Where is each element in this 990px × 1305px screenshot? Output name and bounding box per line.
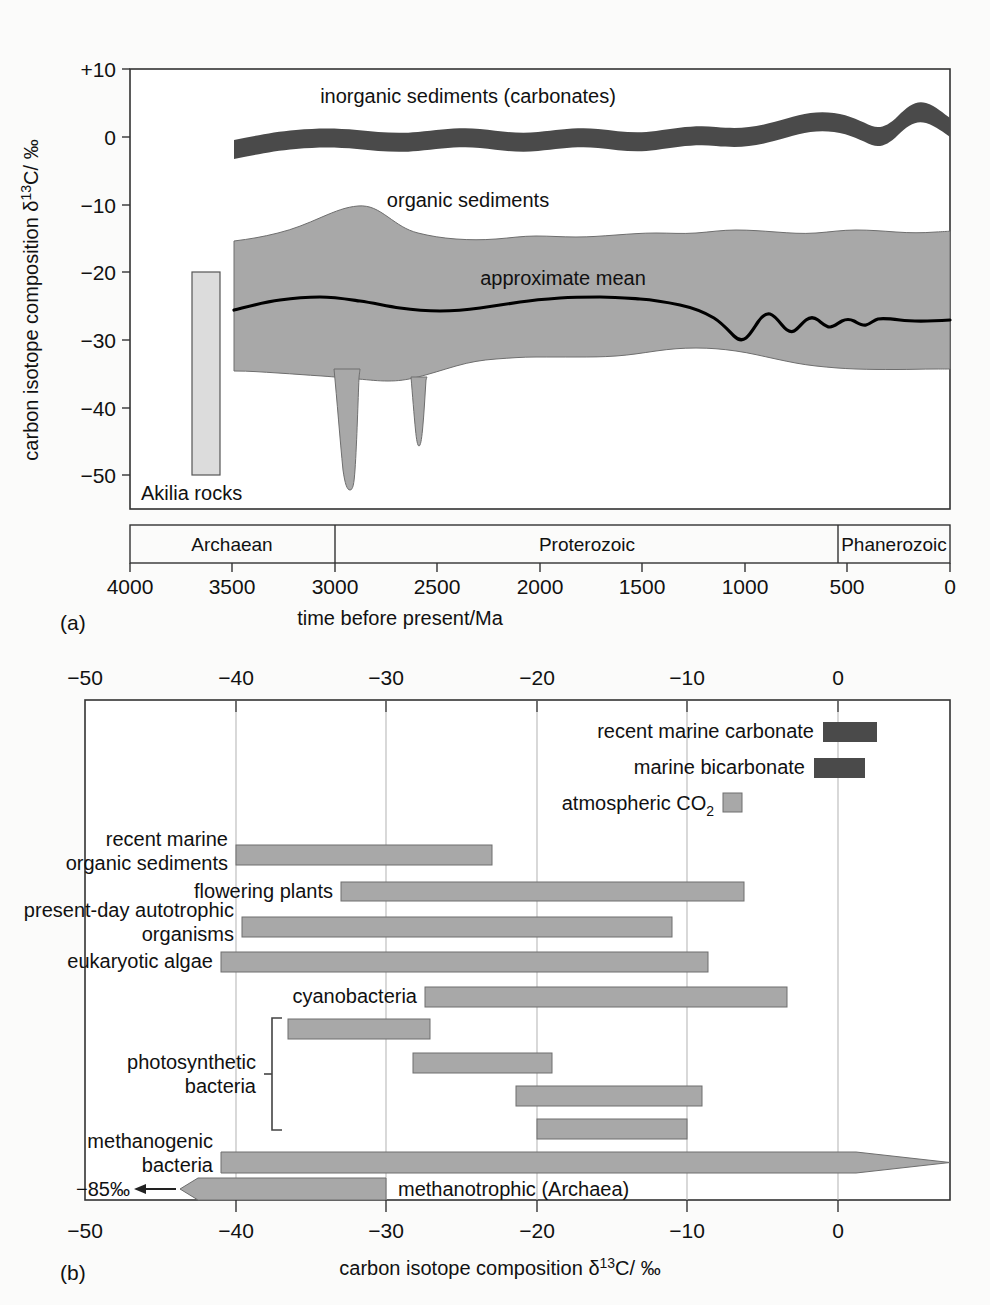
organic-sediments-label: organic sediments xyxy=(387,189,549,211)
bottom-x-tick-label: −10 xyxy=(669,1219,705,1242)
bottom-x-tick-label: −40 xyxy=(218,1219,254,1242)
label-recent-marine-line2: organic sediments xyxy=(66,852,228,874)
label-eukaryotic-algae: eukaryotic algae xyxy=(67,950,213,972)
label-recent-marine-line1: recent marine xyxy=(106,828,228,850)
y-tick-label: −50 xyxy=(80,464,116,487)
era-label-phanerozoic: Phanerozoic xyxy=(841,534,947,555)
bottom-x-tick-label: −30 xyxy=(368,1219,404,1242)
era-label-archaean: Archaean xyxy=(191,534,272,555)
bottom-x-tick-label: −50 xyxy=(67,1219,103,1242)
panel-a-label: (a) xyxy=(60,611,86,634)
top-x-tick-label: −20 xyxy=(519,666,555,689)
bar-flowering-plants xyxy=(341,882,744,901)
label-atmospheric-co2-subscript: 2 xyxy=(706,803,714,819)
x-tick-label: 3500 xyxy=(209,575,256,598)
bar-cyanobacteria xyxy=(425,987,787,1007)
inorganic-sediments-label: inorganic sediments (carbonates) xyxy=(320,85,616,107)
label-autotrophic-line1: present-day autotrophic xyxy=(24,899,234,921)
label-minus-85-permil: −85‰ xyxy=(76,1178,130,1200)
label-marine-bicarbonate: marine bicarbonate xyxy=(634,756,805,778)
x-tick-label: 1500 xyxy=(619,575,666,598)
label-photosynthetic-line2: bacteria xyxy=(185,1075,257,1097)
label-methanotrophic: methanotrophic (Archaea) xyxy=(398,1178,629,1200)
x-tick-label: 2000 xyxy=(517,575,564,598)
y-tick-label: +10 xyxy=(80,58,116,81)
x-tick-label: 500 xyxy=(829,575,864,598)
akilia-rocks-label: Akilia rocks xyxy=(141,482,242,504)
bar-methanotrophic-archaea xyxy=(180,1178,386,1200)
y-tick-label: −20 xyxy=(80,261,116,284)
label-methanogenic-line1: methanogenic xyxy=(87,1130,213,1152)
y-axis-title-delta: δ xyxy=(20,200,42,211)
top-x-tick-label: 0 xyxy=(832,666,844,689)
label-atmospheric-co2-main: atmospheric CO xyxy=(562,792,707,814)
bar-photosynthetic-bacteria-1 xyxy=(288,1019,430,1039)
bar-recent-marine-organic-sediments xyxy=(236,845,492,865)
bottom-x-tick-label: 0 xyxy=(832,1219,844,1242)
x-tick-label: 4000 xyxy=(107,575,154,598)
figure-svg: Archaean Proterozoic Phanerozoic +10 0 −… xyxy=(0,0,990,1305)
akilia-rocks-bar xyxy=(192,272,220,475)
y-tick-label: −40 xyxy=(80,397,116,420)
label-autotrophic-line2: organisms xyxy=(142,923,234,945)
bar-eukaryotic-algae xyxy=(221,952,708,972)
y-tick-label: −10 xyxy=(80,194,116,217)
bar-photosynthetic-bacteria-4 xyxy=(537,1119,687,1139)
label-cyanobacteria: cyanobacteria xyxy=(292,985,417,1007)
bar-marine-bicarbonate xyxy=(814,758,865,778)
y-tick-label: 0 xyxy=(104,126,116,149)
figure-container: Archaean Proterozoic Phanerozoic +10 0 −… xyxy=(0,0,990,1305)
panel-b-label: (b) xyxy=(60,1261,86,1284)
x-tick-label: 1000 xyxy=(722,575,769,598)
bar-atmospheric-co2 xyxy=(723,793,742,812)
y-axis-title-superscript: 13 xyxy=(18,185,34,201)
label-methanogenic-line2: bacteria xyxy=(142,1154,214,1176)
bar-photosynthetic-bacteria-2 xyxy=(413,1053,552,1073)
top-x-tick-label: −10 xyxy=(669,666,705,689)
x-tick-label: 0 xyxy=(944,575,956,598)
bar-photosynthetic-bacteria-3 xyxy=(516,1086,702,1106)
panel-b-x-axis-title-tail: C/ ‰ xyxy=(615,1257,661,1279)
label-photosynthetic-line1: photosynthetic xyxy=(127,1051,256,1073)
bottom-x-tick-label: −20 xyxy=(519,1219,555,1242)
x-tick-label: 2500 xyxy=(414,575,461,598)
era-label-proterozoic: Proterozoic xyxy=(539,534,635,555)
panel-b-x-axis-title-main: carbon isotope composition xyxy=(339,1257,588,1279)
top-x-tick-label: −50 xyxy=(67,666,103,689)
top-x-tick-label: −30 xyxy=(368,666,404,689)
bar-recent-marine-carbonate xyxy=(823,722,877,742)
y-axis-title-tail: C/ ‰ xyxy=(20,139,42,185)
label-recent-marine-carbonate: recent marine carbonate xyxy=(597,720,814,742)
y-tick-label: −30 xyxy=(80,329,116,352)
y-axis-title-main: carbon isotope composition xyxy=(20,212,42,461)
panel-b-x-axis-title-delta: δ xyxy=(588,1257,599,1279)
bar-present-day-autotrophic-organisms xyxy=(242,917,672,937)
approximate-mean-label: approximate mean xyxy=(480,267,646,289)
top-x-tick-label: −40 xyxy=(218,666,254,689)
panel-b: −50 −40 −30 −20 −10 0 recent marine carb… xyxy=(24,666,950,1284)
x-tick-label: 3000 xyxy=(312,575,359,598)
panel-b-x-axis-title-superscript: 13 xyxy=(600,1255,616,1271)
bar-methanogenic-bacteria xyxy=(221,1152,950,1173)
panel-a-x-axis-title: time before present/Ma xyxy=(297,607,504,629)
